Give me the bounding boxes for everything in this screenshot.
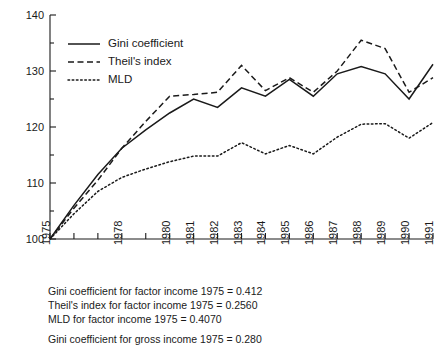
x-tick-label: 1980 xyxy=(160,221,172,245)
y-tick-label: 130 xyxy=(26,65,44,77)
caption-line-theil: Theil's index for factor income 1975 = 0… xyxy=(48,298,438,312)
x-tick-label: 1985 xyxy=(279,221,291,245)
x-tick-label: 1975 xyxy=(40,221,52,245)
x-tick-label: 1987 xyxy=(327,221,339,245)
x-tick-label: 1983 xyxy=(232,221,244,245)
series-line-theil-s-index xyxy=(50,40,433,239)
x-tick-label: 1988 xyxy=(351,221,363,245)
x-tick-label: 1989 xyxy=(375,221,387,245)
y-tick-label: 140 xyxy=(26,9,44,21)
series-line-gini-coefficient xyxy=(50,64,433,239)
chart-legend: Gini coefficientTheil's indexMLD xyxy=(68,37,184,85)
caption-footnote: Gini coefficient for gross income 1975 =… xyxy=(48,332,438,346)
legend-label: Gini coefficient xyxy=(108,37,184,49)
x-tick-label: 1986 xyxy=(303,221,315,245)
chart-caption: Gini coefficient for factor income 1975 … xyxy=(48,284,438,346)
x-tick-label: 1984 xyxy=(255,221,267,245)
x-tick-label: 1981 xyxy=(184,221,196,245)
legend-label: MLD xyxy=(108,73,132,85)
x-tick-label: 1978 xyxy=(112,221,124,245)
x-tick-label: 1982 xyxy=(208,221,220,245)
y-tick-label: 110 xyxy=(26,177,44,189)
x-tick-label: 1991 xyxy=(423,221,435,245)
x-tick-label: 1990 xyxy=(399,221,411,245)
caption-line-mld: MLD for factor income 1975 = 0.4070 xyxy=(48,312,438,326)
y-tick-label: 120 xyxy=(26,121,44,133)
legend-label: Theil's index xyxy=(108,55,172,67)
caption-line-gini: Gini coefficient for factor income 1975 … xyxy=(48,284,438,298)
line-chart-plot: 1001101201301401975197819801981198219831… xyxy=(0,0,445,290)
